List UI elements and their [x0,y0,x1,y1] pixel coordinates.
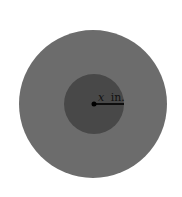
concentric-circles-diagram: x in. [0,0,182,197]
radius-label: x in. [98,91,125,104]
radius-unit: in. [111,91,125,104]
center-dot [92,102,97,107]
radius-variable: x [98,91,105,104]
